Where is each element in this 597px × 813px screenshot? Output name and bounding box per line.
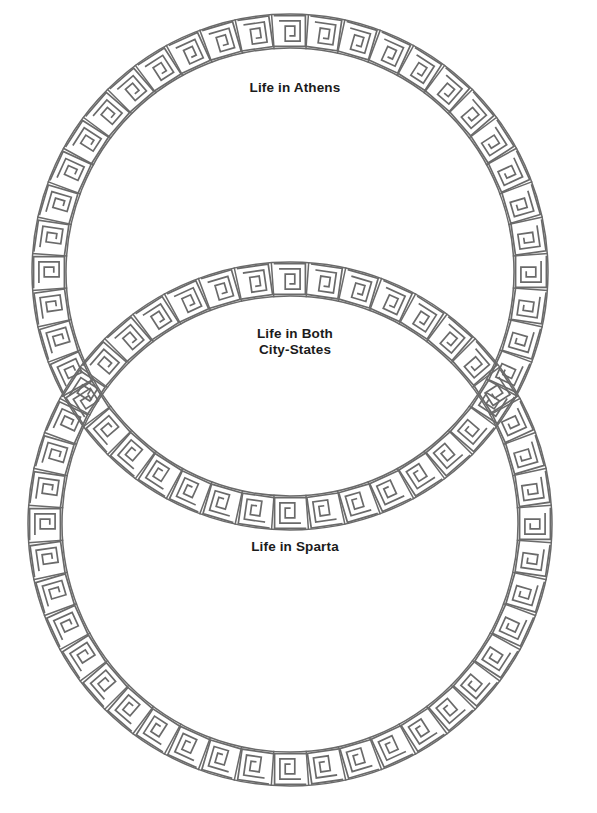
- label-life-in-sparta: Life in Sparta: [190, 539, 400, 555]
- label-life-in-athens: Life in Athens: [190, 80, 400, 96]
- worksheet-page: Life in Athens Life in Both City-States …: [0, 0, 597, 813]
- label-life-in-both-city-states: Life in Both City-States: [190, 326, 400, 357]
- venn-diagram: [0, 0, 597, 813]
